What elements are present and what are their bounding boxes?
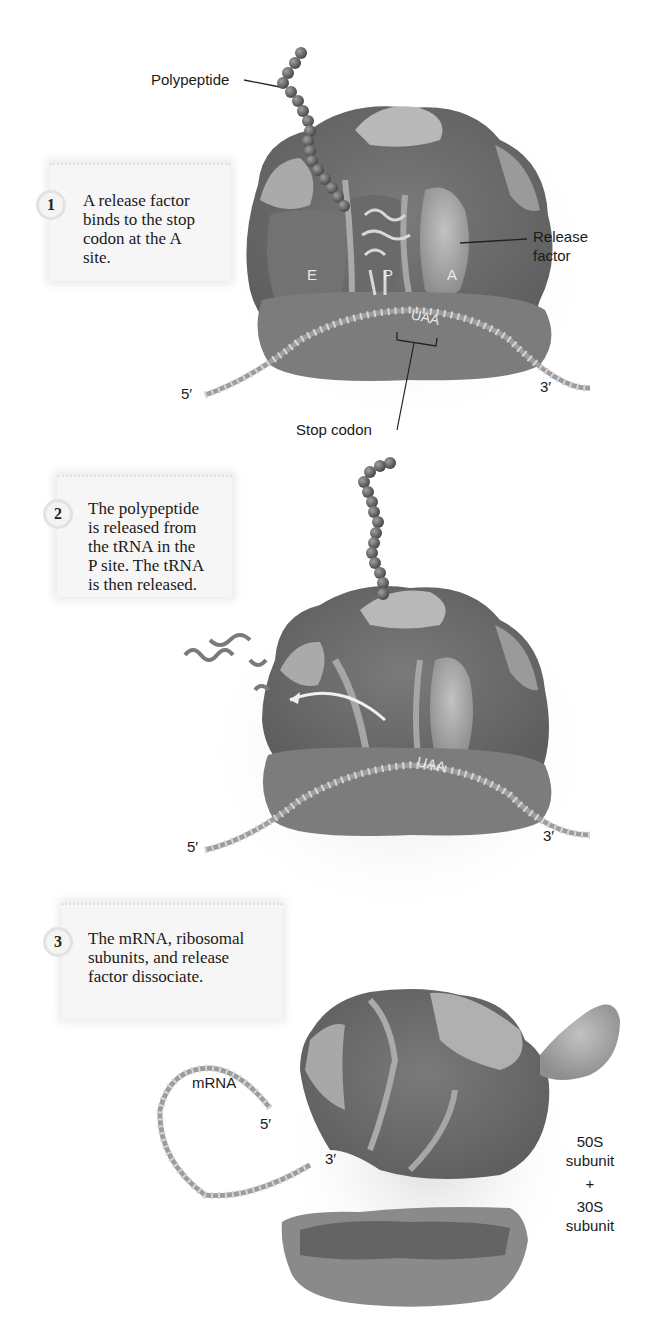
label-a-site: A xyxy=(447,266,457,283)
label-3-prime: 3′ xyxy=(540,377,551,396)
label-50s-subunit: 50S subunit + 30S subunit xyxy=(540,1132,640,1235)
step-2-description: The polypeptide is released from the tRN… xyxy=(88,499,204,594)
step-3-description: The mRNA, ribosomal subunits, and releas… xyxy=(88,929,244,986)
label-polypeptide: Polypeptide xyxy=(151,70,229,89)
label-p-site: P xyxy=(383,266,393,283)
step-1-number: 1 xyxy=(36,190,66,220)
label-5-prime: 5′ xyxy=(260,1114,271,1133)
step-1-description: A release factor binds to the stop codon… xyxy=(83,191,195,267)
step-3-number: 3 xyxy=(43,927,73,957)
label-stop-codon: Stop codon xyxy=(296,420,372,439)
label-5-prime: 5′ xyxy=(181,384,192,403)
label-mrna: mRNA xyxy=(192,1073,236,1092)
plus-sign: + xyxy=(540,1174,640,1193)
label-release-factor-1: Release xyxy=(533,227,588,246)
label-5-prime: 5′ xyxy=(187,837,198,856)
label-release-factor-2: factor xyxy=(533,246,571,265)
label-3-prime: 3′ xyxy=(543,826,554,845)
label-e-site: E xyxy=(307,266,317,283)
step-2-number: 2 xyxy=(43,499,73,529)
label-3-prime: 3′ xyxy=(325,1149,336,1168)
panel-2-art xyxy=(185,457,600,920)
